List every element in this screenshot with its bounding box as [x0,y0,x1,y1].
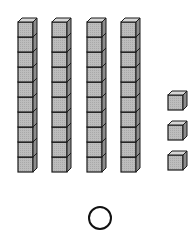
tens-rod-4 [121,18,140,172]
tens-rod-2 [52,18,71,172]
tens-rod-3 [87,18,106,172]
unit-cubes-group [168,91,187,170]
unit-cube-1 [168,91,187,110]
rod-cube [87,18,106,37]
unit-cube-2 [168,121,187,140]
base-ten-blocks-diagram [0,0,195,237]
rod-cube [18,18,37,37]
tens-rod-1 [18,18,37,172]
tens-rods-group [18,18,140,172]
answer-bubble[interactable] [89,207,111,229]
rod-cube [121,18,140,37]
unit-cube-3 [168,151,187,170]
rod-cube [52,18,71,37]
